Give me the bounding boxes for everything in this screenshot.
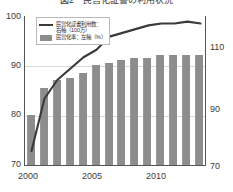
legend-line-swatch-icon (39, 24, 53, 26)
legend-bar-swatch-icon (40, 35, 52, 41)
legend-item-label: 民営化証書利用数： 右軸（100万） (56, 21, 101, 33)
y-axis-tick-left-70: 70 (0, 160, 21, 169)
legend-item-bar: 民営化率：左軸（%） (39, 34, 106, 41)
x-axis-tick-2005: 2005 (82, 172, 102, 181)
legend-item-line: 民営化証書利用数： 右軸（100万） (39, 21, 106, 33)
y-axis-tick-right-70: 70 (210, 162, 220, 171)
chart-figure: 図2 民営化証書の利用状況 100 90 80 70 110 90 70 200… (0, 0, 233, 192)
x-axis-tick-2000: 2000 (18, 172, 38, 181)
y-axis-tick-right-110: 110 (210, 43, 224, 52)
y-axis-tick-right-90: 90 (210, 105, 220, 114)
x-axis-tick-2010: 2010 (146, 172, 166, 181)
y-axis-tick-left-100: 100 (0, 12, 21, 21)
y-axis-tick-left-80: 80 (0, 110, 21, 119)
y-axis-tick-left-90: 90 (0, 61, 21, 70)
chart-title: 図2 民営化証書の利用状況 (0, 0, 233, 5)
chart-legend: 民営化証書利用数： 右軸（100万） 民営化率：左軸（%） (36, 17, 110, 45)
legend-item-label: 民営化率：左軸（%） (56, 34, 106, 40)
